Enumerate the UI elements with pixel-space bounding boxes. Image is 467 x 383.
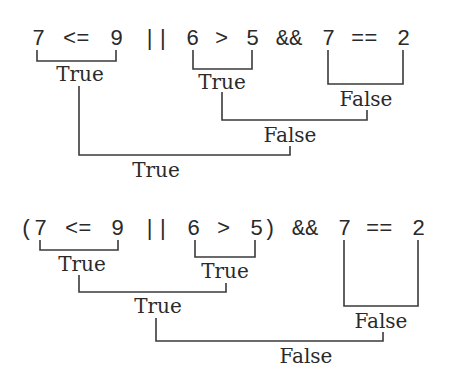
expr2-token-gt: > — [217, 217, 230, 242]
expr1-bracket-7-eq-2 — [328, 50, 403, 84]
expr1-token-and: && — [276, 27, 302, 52]
expr2-token-9: 9 — [111, 217, 124, 242]
expr1-token-7b: 7 — [322, 27, 335, 52]
expr2-token-and: && — [292, 217, 318, 242]
expr2-result-7-le-9: True — [58, 252, 106, 276]
expr1-result-7-eq-2: False — [340, 87, 393, 111]
expr2-token-eq: == — [366, 217, 392, 242]
expr2-result-and: False — [280, 344, 333, 368]
expr1-bracket-6-gt-5 — [193, 50, 252, 69]
expr2-bracket-and — [156, 318, 383, 341]
expr1-token-gt: > — [215, 27, 228, 52]
expr1-token-6: 6 — [186, 27, 199, 52]
expr2-token-6: 6 — [187, 217, 200, 242]
expr1-token-2: 2 — [397, 27, 410, 52]
expr1-token-eq: == — [351, 27, 377, 52]
expr2-token-2: 2 — [412, 217, 425, 242]
expr2-token-lparen: ( — [20, 217, 33, 242]
expr2-token-5: 5 — [250, 217, 263, 242]
expr1-result-7-le-9: True — [56, 62, 104, 86]
expr2-result-7-eq-2: False — [355, 309, 408, 333]
expr2-token-or: || — [143, 217, 169, 242]
expr2-result-or: True — [134, 294, 182, 318]
expr2-result-6-gt-5: True — [201, 259, 249, 283]
expr2-bracket-6-gt-5 — [195, 240, 255, 257]
expression-2: ( 7 <= 9 || 6 > 5 ) && 7 == 2 True True … — [20, 217, 425, 368]
expr2-token-rparen: ) — [263, 217, 276, 242]
expr2-token-7: 7 — [34, 217, 47, 242]
expr1-result-or: True — [132, 158, 180, 182]
expr2-token-le: <= — [65, 217, 91, 242]
expr1-result-and: False — [264, 123, 317, 147]
expression-1: 7 <= 9 || 6 > 5 && 7 == 2 True True Fals… — [32, 27, 410, 182]
expr1-token-or: || — [143, 27, 169, 52]
expr1-token-le: <= — [63, 27, 89, 52]
expr1-token-9: 9 — [110, 27, 123, 52]
expr1-result-6-gt-5: True — [198, 70, 246, 94]
expr2-token-7b: 7 — [338, 217, 351, 242]
operator-precedence-diagram: 7 <= 9 || 6 > 5 && 7 == 2 True True Fals… — [0, 0, 467, 383]
expr1-token-5: 5 — [246, 27, 259, 52]
expr1-token-7: 7 — [32, 27, 45, 52]
expr2-bracket-7-eq-2 — [344, 240, 418, 306]
